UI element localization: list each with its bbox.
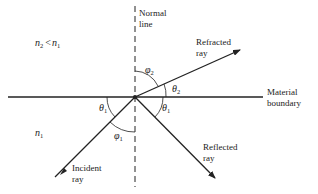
theta1-right-label: θ1 bbox=[162, 102, 170, 114]
theta2-label: θ2 bbox=[172, 83, 180, 95]
refracted-ray-label-2: ray bbox=[196, 48, 208, 58]
intersection-point bbox=[133, 95, 137, 99]
incident-ray-label-2: ray bbox=[72, 174, 84, 184]
reflected-ray bbox=[135, 97, 215, 178]
refraction-diagram: Normal line n2<n1 n1 Refracted ray Mater… bbox=[0, 0, 318, 194]
theta1-left-arc bbox=[107, 97, 115, 117]
phi2-label: φ2 bbox=[145, 64, 154, 76]
theta1-left-label: θ1 bbox=[99, 102, 107, 114]
material-boundary-label: Material bbox=[267, 87, 298, 97]
theta2-arc bbox=[164, 84, 166, 97]
refracted-ray-label: Refracted bbox=[196, 37, 231, 47]
normal-line-label: Normal bbox=[139, 8, 167, 18]
upper-medium-label: n2<n1 bbox=[35, 37, 60, 49]
normal-line-label-2: line bbox=[139, 19, 153, 29]
lower-medium-label: n1 bbox=[35, 127, 43, 139]
incident-ray-label: Incident bbox=[72, 163, 102, 173]
reflected-ray-label: Reflected bbox=[203, 142, 238, 152]
reflected-ray-label-2: ray bbox=[203, 153, 215, 163]
material-boundary-label-2: boundary bbox=[267, 98, 301, 108]
phi1-label: φ1 bbox=[114, 130, 123, 142]
